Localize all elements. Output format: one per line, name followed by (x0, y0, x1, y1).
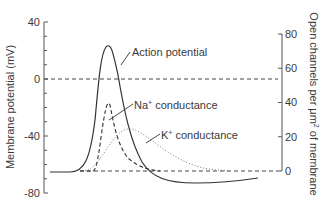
annotation-k-conductance: K+ conductance (161, 129, 238, 141)
ap-leader-line (121, 52, 130, 65)
annotation-action-potential: Action potential (132, 46, 207, 58)
na-leader-line (109, 104, 133, 120)
left-tick-minus80: -80 (24, 187, 40, 199)
left-tick-0: 0 (34, 73, 40, 85)
right-axis-label: Open channels per µm2 of membrane (308, 12, 320, 195)
left-axis: 40 0 -40 -80 Membrane potential (mV) (4, 16, 48, 199)
right-tick-40: 40 (285, 96, 297, 108)
action-potential-curve (50, 46, 258, 183)
right-tick-0: 0 (285, 165, 291, 177)
left-tick-minus40: -40 (24, 130, 40, 142)
left-axis-label: Membrane potential (mV) (4, 45, 16, 169)
action-potential-chart: 40 0 -40 -80 Membrane potential (mV) 80 … (0, 0, 326, 204)
right-axis: 80 60 40 20 0 Open channels per µm2 of m… (278, 12, 320, 195)
right-tick-60: 60 (285, 62, 297, 74)
annotation-na-conductance: Na+ conductance (134, 99, 218, 111)
right-tick-80: 80 (285, 28, 297, 40)
right-tick-20: 20 (285, 131, 297, 143)
left-tick-40: 40 (28, 16, 40, 28)
